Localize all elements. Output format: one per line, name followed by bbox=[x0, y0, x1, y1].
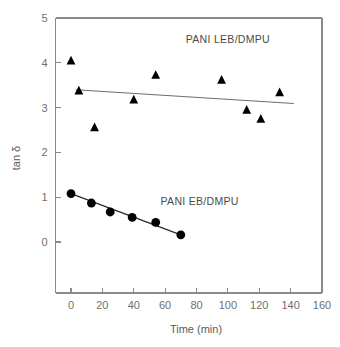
y-tick-label: 1 bbox=[41, 191, 47, 203]
x-tick-label: 80 bbox=[190, 299, 202, 311]
scatter-plot: 020406080100120140160 012345 Time (min) … bbox=[0, 0, 340, 347]
data-point-circle bbox=[151, 218, 160, 227]
x-axis-title: Time (min) bbox=[170, 323, 222, 335]
chart-container: 020406080100120140160 012345 Time (min) … bbox=[0, 0, 340, 347]
x-tick-label: 160 bbox=[313, 299, 331, 311]
x-tick-label: 60 bbox=[159, 299, 171, 311]
y-axis-title: tan δ bbox=[10, 146, 22, 170]
x-axis-tick-labels: 020406080100120140160 bbox=[68, 299, 331, 311]
x-tick-label: 140 bbox=[281, 299, 299, 311]
data-point-circle bbox=[176, 230, 185, 239]
data-point-circle bbox=[87, 199, 96, 208]
plot-background bbox=[0, 0, 340, 347]
x-tick-label: 120 bbox=[250, 299, 268, 311]
data-point-circle bbox=[128, 213, 137, 222]
x-tick-label: 0 bbox=[68, 299, 74, 311]
x-tick-label: 20 bbox=[96, 299, 108, 311]
y-tick-label: 2 bbox=[41, 146, 47, 158]
y-tick-label: 5 bbox=[41, 12, 47, 24]
series-label-pani-eb-dmpu: PANI EB/DMPU bbox=[161, 195, 239, 207]
y-tick-label: 4 bbox=[41, 57, 47, 69]
y-tick-label: 3 bbox=[41, 102, 47, 114]
series-label-pani-leb-dmpu: PANI LEB/DMPU bbox=[186, 33, 270, 45]
y-tick-label: 0 bbox=[41, 236, 47, 248]
data-point-circle bbox=[106, 208, 115, 217]
x-tick-label: 100 bbox=[219, 299, 237, 311]
data-point-circle bbox=[67, 189, 76, 198]
x-tick-label: 40 bbox=[128, 299, 140, 311]
